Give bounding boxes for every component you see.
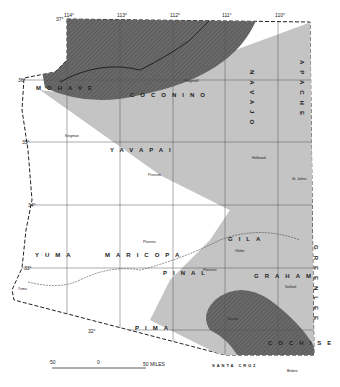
county-cochise: COCHISE (268, 340, 337, 346)
town-globe: Globe (235, 249, 244, 253)
town-prescott: Prescott (148, 173, 161, 177)
lat-label-35: 35° (22, 139, 30, 145)
county-yavapai: YAVAPAI (110, 147, 177, 153)
svg-text:50 MILES: 50 MILES (143, 361, 166, 367)
town-holbrook: Holbrook (252, 156, 266, 160)
svg-text:50: 50 (50, 359, 56, 365)
county-pima: PIMA (135, 325, 174, 331)
town-tucson: Tucson (227, 317, 238, 321)
lat-label-33: 33° (24, 265, 32, 271)
town-yuma: Yuma (18, 287, 27, 291)
county-santa-cruz: SANTA CRUZ (212, 363, 258, 368)
county-gila: GILA (228, 236, 266, 242)
lat-label-34: 34° (28, 202, 36, 208)
lon-label-111: 111° (222, 12, 232, 18)
county-apache: APACHE (299, 60, 305, 121)
town-bisbee: Bisbee (287, 369, 298, 373)
town-phoenix: Phoenix (143, 240, 156, 244)
town-st-johns: St. Johns (292, 177, 307, 181)
svg-text:0: 0 (97, 359, 100, 365)
lon-label-114: 114° (64, 12, 74, 18)
county-greenlee: GREENLEE (313, 245, 319, 326)
county-mohave: MOHAVE (36, 85, 98, 91)
town-florence: Florence (203, 268, 217, 272)
county-graham: GRAHAM (254, 273, 317, 279)
lat-label-36: 36° (18, 77, 26, 83)
lon-label-113: 113° (117, 12, 127, 18)
county-yuma: YUMA (35, 252, 77, 258)
scale-bar: 50 0 50 MILES (50, 359, 166, 368)
town-flagstaff: Flagstaff (185, 79, 198, 83)
lat-label-37: 37° (56, 16, 64, 22)
arizona-map: 114° 113° 112° 111° 110° 37° 36° 35° 34°… (0, 0, 340, 387)
town-kingman: Kingman (65, 134, 79, 138)
county-coconino: COCONINO (130, 92, 211, 98)
lon-label-110: 110° (275, 12, 285, 18)
lon-label-112: 112° (170, 12, 180, 18)
lat-label-32: 32° (88, 328, 96, 334)
county-maricopa: MARICOPA (105, 252, 185, 258)
town-safford: Safford (285, 285, 296, 289)
county-navajo: NAVAJO (249, 70, 255, 130)
